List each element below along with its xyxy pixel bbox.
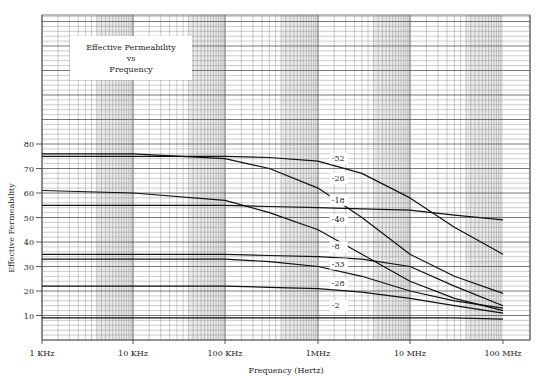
x-tick-label: 100 MHz: [484, 349, 521, 358]
curve-label: -28: [332, 279, 345, 288]
curve-label: -33: [332, 260, 345, 269]
curve-label: -8: [332, 242, 340, 251]
y-tick-label: 80: [24, 140, 34, 149]
chart-title-line-3: Frequency: [70, 64, 192, 75]
y-tick-label: 70: [24, 165, 34, 174]
chart-title-line-2: vs: [70, 53, 192, 64]
x-tick-label: 10 MHz: [394, 349, 426, 358]
y-tick-label: 50: [24, 214, 34, 223]
y-tick-label: 30: [24, 263, 34, 272]
curve-label: -26: [332, 174, 345, 183]
curve-label: -52: [332, 154, 345, 163]
chart-title-line-1: Effective Permeability: [70, 42, 192, 53]
x-tick-label: 10 KHz: [118, 349, 148, 358]
y-axis-title: Effective Permeability: [7, 183, 16, 273]
curve-label: -40: [332, 215, 345, 224]
curve-label: -18: [332, 196, 345, 205]
x-axis-title: Frequency (Hertz): [248, 366, 323, 375]
y-tick-label: 60: [24, 189, 34, 198]
x-tick-label: 100 KHz: [208, 349, 243, 358]
chart-title-box: Effective Permeability vs Frequency: [70, 36, 192, 80]
y-tick-label: 40: [24, 238, 34, 247]
x-tick-label: 1 KHz: [30, 349, 55, 358]
y-tick-label: 20: [24, 287, 34, 296]
y-tick-label: 10: [24, 312, 34, 321]
x-tick-label: 1MHz: [306, 349, 330, 358]
curve-label: -2: [332, 301, 340, 310]
